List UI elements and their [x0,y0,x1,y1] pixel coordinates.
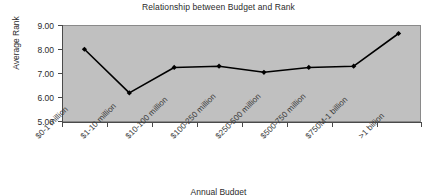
x-tick-mark [197,123,198,127]
x-tick-mark [152,123,153,127]
chart-container: Relationship between Budget and Rank Ave… [0,0,437,195]
y-tick-label: 9.00 [22,21,54,31]
x-axis-title: Annual Budget [0,187,437,195]
y-tick-label: 6.00 [22,93,54,103]
y-tick-mark [58,49,62,50]
y-tick-label: 8.00 [22,45,54,55]
x-tick-mark [242,123,243,127]
y-tick-mark [58,73,62,74]
x-tick-mark [287,123,288,127]
x-tick-mark [107,123,108,127]
y-axis-title: Average Rank [11,0,21,91]
y-tick-mark [58,97,62,98]
y-tick-label: 7.00 [22,69,54,79]
chart-title: Relationship between Budget and Rank [0,2,437,12]
x-tick-mark [421,123,422,127]
x-tick-mark [62,123,63,127]
x-tick-mark [332,123,333,127]
y-tick-mark [58,25,62,26]
